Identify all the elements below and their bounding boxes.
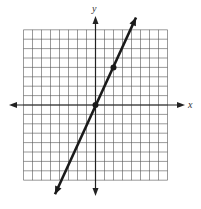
y-axis-label: y [91, 3, 97, 14]
axes: x y [9, 3, 193, 196]
coordinate-plane: x y [0, 0, 201, 209]
data-point [93, 102, 99, 108]
data-point [111, 64, 117, 70]
y-axis-top-arrow-icon [93, 16, 99, 24]
x-axis-label: x [187, 99, 193, 110]
x-axis-left-arrow-icon [9, 102, 17, 108]
x-axis-right-arrow-icon [177, 102, 185, 108]
y-axis-bottom-arrow-icon [93, 188, 99, 196]
